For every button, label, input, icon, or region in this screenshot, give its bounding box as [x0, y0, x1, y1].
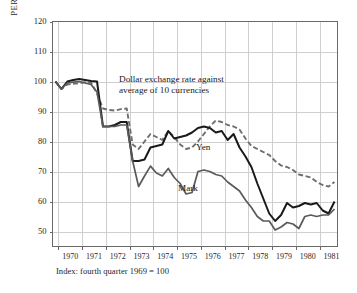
- series-path: [55, 79, 334, 221]
- y-axis-label: PERCENT CHANGE*: [9, 0, 19, 52]
- y-axis-tick-label: 110: [21, 46, 47, 56]
- plot-frame: [50, 22, 338, 250]
- chart-plot-area: [0, 0, 357, 293]
- series-label-mark: Mark: [178, 183, 198, 193]
- gridlines: [53, 22, 338, 247]
- annotation-line-1: Dollar exchange rate against: [119, 74, 224, 85]
- chart-annotation: Dollar exchange rate against average of …: [119, 74, 224, 97]
- y-axis-tick-label: 60: [21, 196, 47, 206]
- chart-footnote: Index: fourth quarter 1969 = 100: [56, 266, 169, 276]
- annotation-line-2: average of 10 currencies: [119, 85, 224, 96]
- chart-figure: PERCENT CHANGE* 1201101009080706050 1970…: [0, 0, 357, 293]
- y-axis-tick-label: 80: [21, 136, 47, 146]
- y-axis-tick-label: 70: [21, 166, 47, 176]
- y-axis-label-text: PERCENT CHANGE*: [9, 0, 19, 16]
- y-axis-tick-label: 100: [21, 76, 47, 86]
- y-axis-tick-label: 90: [21, 106, 47, 116]
- series-label-yen: Yen: [196, 142, 210, 152]
- data-series: [55, 79, 334, 230]
- y-axis-tick-label: 120: [21, 16, 47, 26]
- y-axis-tick-label: 50: [21, 226, 47, 236]
- x-axis-tick-label: 1981: [317, 252, 347, 261]
